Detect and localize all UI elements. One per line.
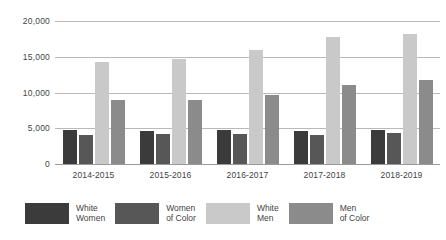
- legend-label-line1: White: [257, 203, 279, 214]
- y-tick-label: 15,000: [23, 52, 50, 62]
- legend-label-line2: Men: [257, 213, 279, 224]
- legend-label: WhiteMen: [257, 203, 279, 224]
- bar: [294, 131, 308, 164]
- y-tick-label: 10,000: [23, 88, 50, 98]
- bar: [342, 85, 356, 164]
- legend-swatch: [115, 203, 159, 224]
- bar: [217, 130, 231, 164]
- bar: [156, 134, 170, 164]
- x-axis: 2014-20152015-20162016-20172017-20182018…: [55, 170, 440, 184]
- bars-layer: [55, 21, 440, 164]
- bar: [419, 80, 433, 164]
- plot-area: [55, 21, 440, 164]
- x-tick-label: 2017-2018: [304, 170, 346, 180]
- gridline-0: [55, 164, 440, 165]
- x-tick-label: 2018-2019: [381, 170, 423, 180]
- x-tick-label: 2014-2015: [73, 170, 115, 180]
- x-tick-label: 2016-2017: [227, 170, 269, 180]
- x-tick-label: 2015-2016: [150, 170, 192, 180]
- legend-label-line1: Women: [166, 203, 196, 214]
- legend-item-white-men[interactable]: WhiteMen: [206, 203, 279, 224]
- bar-group-2015-2016: [140, 21, 202, 164]
- bar: [95, 62, 109, 164]
- chart-legend: WhiteWomenWomenof ColorWhiteMenMenof Col…: [25, 198, 425, 228]
- bar: [140, 131, 154, 164]
- bar: [310, 135, 324, 164]
- bar: [188, 100, 202, 164]
- bar: [265, 95, 279, 164]
- bar: [233, 134, 247, 164]
- legend-label: Menof Color: [340, 203, 370, 224]
- y-tick-label: 20,000: [23, 16, 50, 26]
- bar-group-2018-2019: [371, 21, 433, 164]
- legend-item-men-of-color[interactable]: Menof Color: [289, 203, 370, 224]
- grouped-bar-chart: 05,00010,00015,00020,000 2014-20152015-2…: [0, 0, 446, 240]
- legend-item-women-of-color[interactable]: Womenof Color: [115, 203, 196, 224]
- legend-label-line1: Men: [340, 203, 370, 214]
- bar: [326, 37, 340, 164]
- bar: [249, 50, 263, 164]
- legend-label-line2: Women: [76, 213, 105, 224]
- bar: [403, 34, 417, 164]
- bar-group-2014-2015: [63, 21, 125, 164]
- legend-swatch: [25, 203, 69, 224]
- legend-label-line2: of Color: [340, 213, 370, 224]
- y-tick-label: 0: [45, 159, 50, 169]
- legend-item-white-women[interactable]: WhiteWomen: [25, 203, 105, 224]
- y-tick-label: 5,000: [28, 123, 50, 133]
- bar-group-2017-2018: [294, 21, 356, 164]
- bar: [371, 130, 385, 164]
- legend-label: WhiteWomen: [76, 203, 105, 224]
- bar: [172, 59, 186, 164]
- bar: [79, 135, 93, 164]
- legend-label-line1: White: [76, 203, 105, 214]
- legend-label-line2: of Color: [166, 213, 196, 224]
- legend-swatch: [289, 203, 333, 224]
- legend-label: Womenof Color: [166, 203, 196, 224]
- bar: [387, 133, 401, 164]
- y-axis: 05,00010,00015,00020,000: [0, 21, 50, 164]
- legend-swatch: [206, 203, 250, 224]
- bar: [111, 100, 125, 164]
- bar: [63, 130, 77, 164]
- bar-group-2016-2017: [217, 21, 279, 164]
